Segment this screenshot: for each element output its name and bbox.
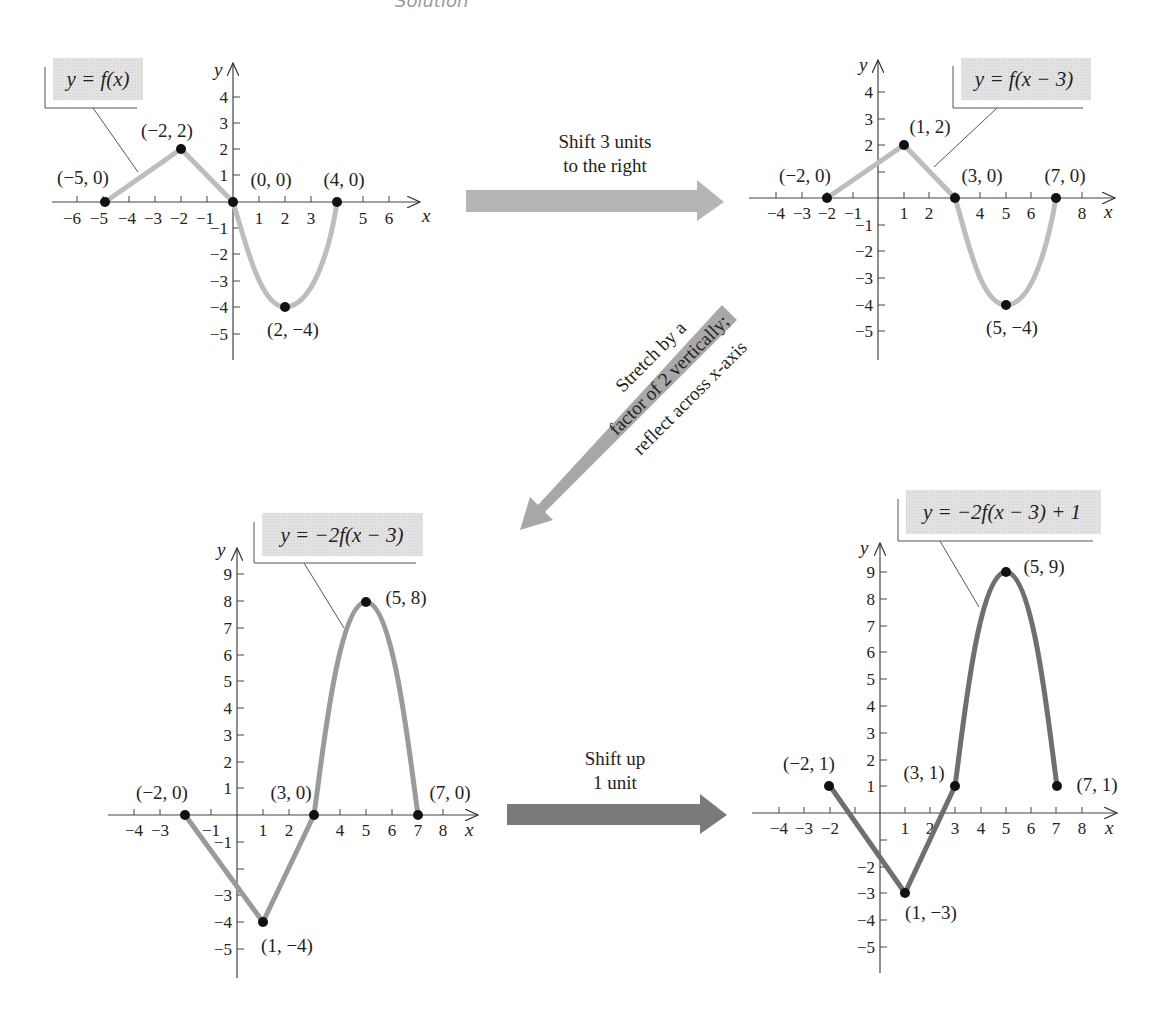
svg-text:2: 2 xyxy=(220,140,229,159)
svg-text:3: 3 xyxy=(220,114,229,133)
svg-text:x: x xyxy=(1104,817,1114,838)
svg-text:(1, 2): (1, 2) xyxy=(909,116,950,138)
svg-text:(3, 0): (3, 0) xyxy=(270,782,311,804)
point-label: (−2, 2) xyxy=(141,120,193,142)
svg-text:−3: −3 xyxy=(210,272,228,291)
point-label: (0, 0) xyxy=(250,169,291,191)
equation-label: y = f(x − 3) xyxy=(973,67,1073,91)
svg-text:−4: −4 xyxy=(125,821,144,840)
svg-text:7: 7 xyxy=(224,619,233,638)
svg-text:−3: −3 xyxy=(793,204,811,223)
svg-text:−5: −5 xyxy=(210,325,228,344)
equation-label: y = −2f(x − 3) xyxy=(279,523,404,547)
svg-text:3: 3 xyxy=(951,819,960,838)
svg-text:x: x xyxy=(421,205,431,226)
svg-text:8: 8 xyxy=(1078,204,1087,223)
svg-text:−5: −5 xyxy=(857,938,875,957)
svg-text:5: 5 xyxy=(359,209,368,228)
svg-text:−4: −4 xyxy=(857,911,876,930)
svg-text:−3: −3 xyxy=(857,884,875,903)
svg-text:3: 3 xyxy=(224,726,233,745)
svg-text:y: y xyxy=(858,537,869,558)
graph-f-shift-right: −4 −3 −2 −1 1 2 4 5 6 8 4 3 2 −1 −2 −3 −… xyxy=(749,54,1115,360)
svg-text:6: 6 xyxy=(385,209,394,228)
point-label: (4, 0) xyxy=(323,169,364,191)
svg-text:(5, 8): (5, 8) xyxy=(385,587,426,609)
svg-text:5: 5 xyxy=(867,670,876,689)
svg-text:−4: −4 xyxy=(210,298,229,317)
svg-text:1: 1 xyxy=(259,821,268,840)
svg-text:4: 4 xyxy=(220,88,229,107)
svg-text:3: 3 xyxy=(865,110,874,129)
svg-text:(−2, 1): (−2, 1) xyxy=(783,753,835,775)
point-label: (−5, 0) xyxy=(57,167,109,189)
svg-text:8: 8 xyxy=(224,592,233,611)
svg-text:4: 4 xyxy=(976,204,985,223)
svg-text:−1: −1 xyxy=(210,219,228,238)
svg-text:−2: −2 xyxy=(170,209,188,228)
svg-text:6: 6 xyxy=(1027,204,1036,223)
graph-stretch-reflect: −4 −3 −1 1 2 4 5 6 7 8 9 8 7 6 5 4 3 2 1… xyxy=(108,513,478,978)
svg-text:−3: −3 xyxy=(151,821,169,840)
point-label: (2, −4) xyxy=(267,319,319,341)
svg-text:(5, −4): (5, −4) xyxy=(986,317,1038,339)
equation-label: y = −2f(x − 3) + 1 xyxy=(921,500,1081,524)
svg-text:−3: −3 xyxy=(795,819,813,838)
svg-text:5: 5 xyxy=(1002,204,1011,223)
svg-text:−2: −2 xyxy=(821,819,839,838)
svg-text:(5, 9): (5, 9) xyxy=(1023,556,1064,578)
svg-text:7: 7 xyxy=(414,821,423,840)
svg-text:4: 4 xyxy=(867,697,876,716)
svg-text:6: 6 xyxy=(867,643,876,662)
svg-text:4: 4 xyxy=(865,83,874,102)
svg-text:x: x xyxy=(1103,201,1113,222)
svg-text:(7, 0): (7, 0) xyxy=(1044,165,1085,187)
equation-label: y = f(x) xyxy=(64,67,129,91)
svg-text:5: 5 xyxy=(362,821,371,840)
svg-text:8: 8 xyxy=(867,590,876,609)
svg-text:1: 1 xyxy=(867,777,876,796)
svg-text:−4: −4 xyxy=(118,209,137,228)
svg-text:8: 8 xyxy=(439,821,448,840)
svg-text:2: 2 xyxy=(925,204,934,223)
svg-text:1: 1 xyxy=(220,166,229,185)
svg-text:7: 7 xyxy=(867,617,876,636)
svg-text:−5: −5 xyxy=(90,209,108,228)
svg-text:2: 2 xyxy=(224,753,233,772)
svg-text:5: 5 xyxy=(224,672,233,691)
svg-text:2: 2 xyxy=(867,751,876,770)
svg-text:(1, −3): (1, −3) xyxy=(905,902,957,924)
svg-text:4: 4 xyxy=(977,819,986,838)
svg-text:−4: −4 xyxy=(767,204,786,223)
svg-text:9: 9 xyxy=(867,563,876,582)
svg-text:1: 1 xyxy=(255,209,264,228)
svg-text:1: 1 xyxy=(900,204,909,223)
svg-text:(3, 0): (3, 0) xyxy=(961,165,1002,187)
svg-text:(−2, 0): (−2, 0) xyxy=(136,782,188,804)
graph-shift-up: −4 −3 −2 1 2 3 4 5 6 7 8 9 8 7 6 5 4 3 2… xyxy=(752,490,1118,973)
svg-text:4: 4 xyxy=(224,699,233,718)
svg-text:−2: −2 xyxy=(857,858,875,877)
svg-text:−1: −1 xyxy=(214,833,232,852)
svg-text:6: 6 xyxy=(1027,819,1036,838)
svg-text:−2: −2 xyxy=(210,245,228,264)
svg-text:7: 7 xyxy=(1052,819,1061,838)
svg-text:1: 1 xyxy=(901,819,910,838)
svg-text:1: 1 xyxy=(224,779,233,798)
svg-text:−3: −3 xyxy=(855,269,873,288)
arrow-shift-right xyxy=(466,180,724,221)
svg-text:−2: −2 xyxy=(818,204,836,223)
svg-text:3: 3 xyxy=(307,209,316,228)
caption-shift-up: Shift up 1 unit xyxy=(535,747,695,795)
svg-text:x: x xyxy=(464,819,474,840)
svg-text:5: 5 xyxy=(1002,819,1011,838)
svg-text:2: 2 xyxy=(281,209,290,228)
svg-text:−5: −5 xyxy=(214,940,232,959)
svg-text:(3, 1): (3, 1) xyxy=(903,762,944,784)
svg-text:y: y xyxy=(857,54,868,75)
svg-text:−5: −5 xyxy=(855,322,873,341)
svg-text:−2: −2 xyxy=(855,242,873,261)
svg-text:−4: −4 xyxy=(855,296,874,315)
svg-text:y: y xyxy=(212,59,223,80)
svg-text:2: 2 xyxy=(285,821,294,840)
